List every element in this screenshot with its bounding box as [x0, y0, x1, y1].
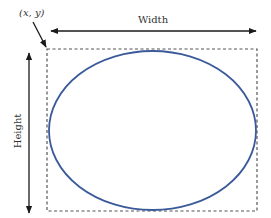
ellipse-shape [49, 51, 256, 210]
corner-pointer-arrow [33, 22, 46, 47]
ellipse-bounding-box-diagram: (x, y) Width Height [0, 0, 271, 218]
corner-label: (x, y) [19, 7, 45, 18]
diagram-svg: (x, y) Width Height [0, 0, 271, 218]
width-label: Width [138, 14, 169, 25]
height-label: Height [12, 114, 23, 149]
